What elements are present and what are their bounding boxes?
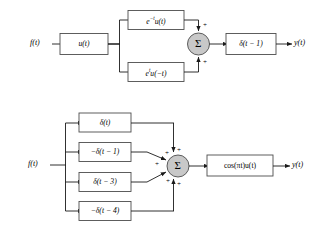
bottom-block-neg-delta-4-label: −δ(t − 4)	[79, 207, 131, 215]
bottom-input-label: f(t)	[28, 160, 38, 168]
bottom-summer-plus-1: +	[165, 150, 169, 157]
bottom-block-delta-t-label: δ(t)	[79, 119, 131, 127]
top-summer-plus-1: +	[203, 22, 207, 29]
bottom-summer-plus-2: +	[177, 147, 181, 154]
top-block-delta-label: δ(t − 1)	[226, 40, 276, 48]
bottom-summer-plus-3: +	[155, 161, 159, 168]
top-summer-plus-2: +	[203, 59, 207, 66]
bottom-summer-plus-4: +	[166, 178, 170, 185]
bottom-summer-plus-5: +	[177, 181, 181, 188]
bottom-block-cos-label: cos(πt)u(t)	[207, 162, 273, 170]
figure-canvas: f(t) u(t) e−tu(t) etu(−t) Σ + + δ(t − 1)…	[0, 0, 318, 232]
top-block-exp-neg-label: e−tu(t)	[128, 16, 184, 25]
top-block-exp-pos-label: etu(−t)	[128, 68, 184, 77]
diagram-lines	[0, 0, 318, 232]
top-input-label: f(t)	[30, 39, 40, 47]
bottom-output-label: y(t)	[292, 161, 303, 169]
top-output-label: y(t)	[294, 39, 305, 47]
top-block-ut-label: u(t)	[60, 40, 108, 48]
bottom-block-delta-3-label: δ(t − 3)	[79, 178, 131, 186]
top-summer-symbol: Σ	[195, 38, 201, 49]
bottom-block-neg-delta-1-label: −δ(t − 1)	[79, 148, 131, 156]
bottom-summer-symbol: Σ	[175, 160, 181, 171]
